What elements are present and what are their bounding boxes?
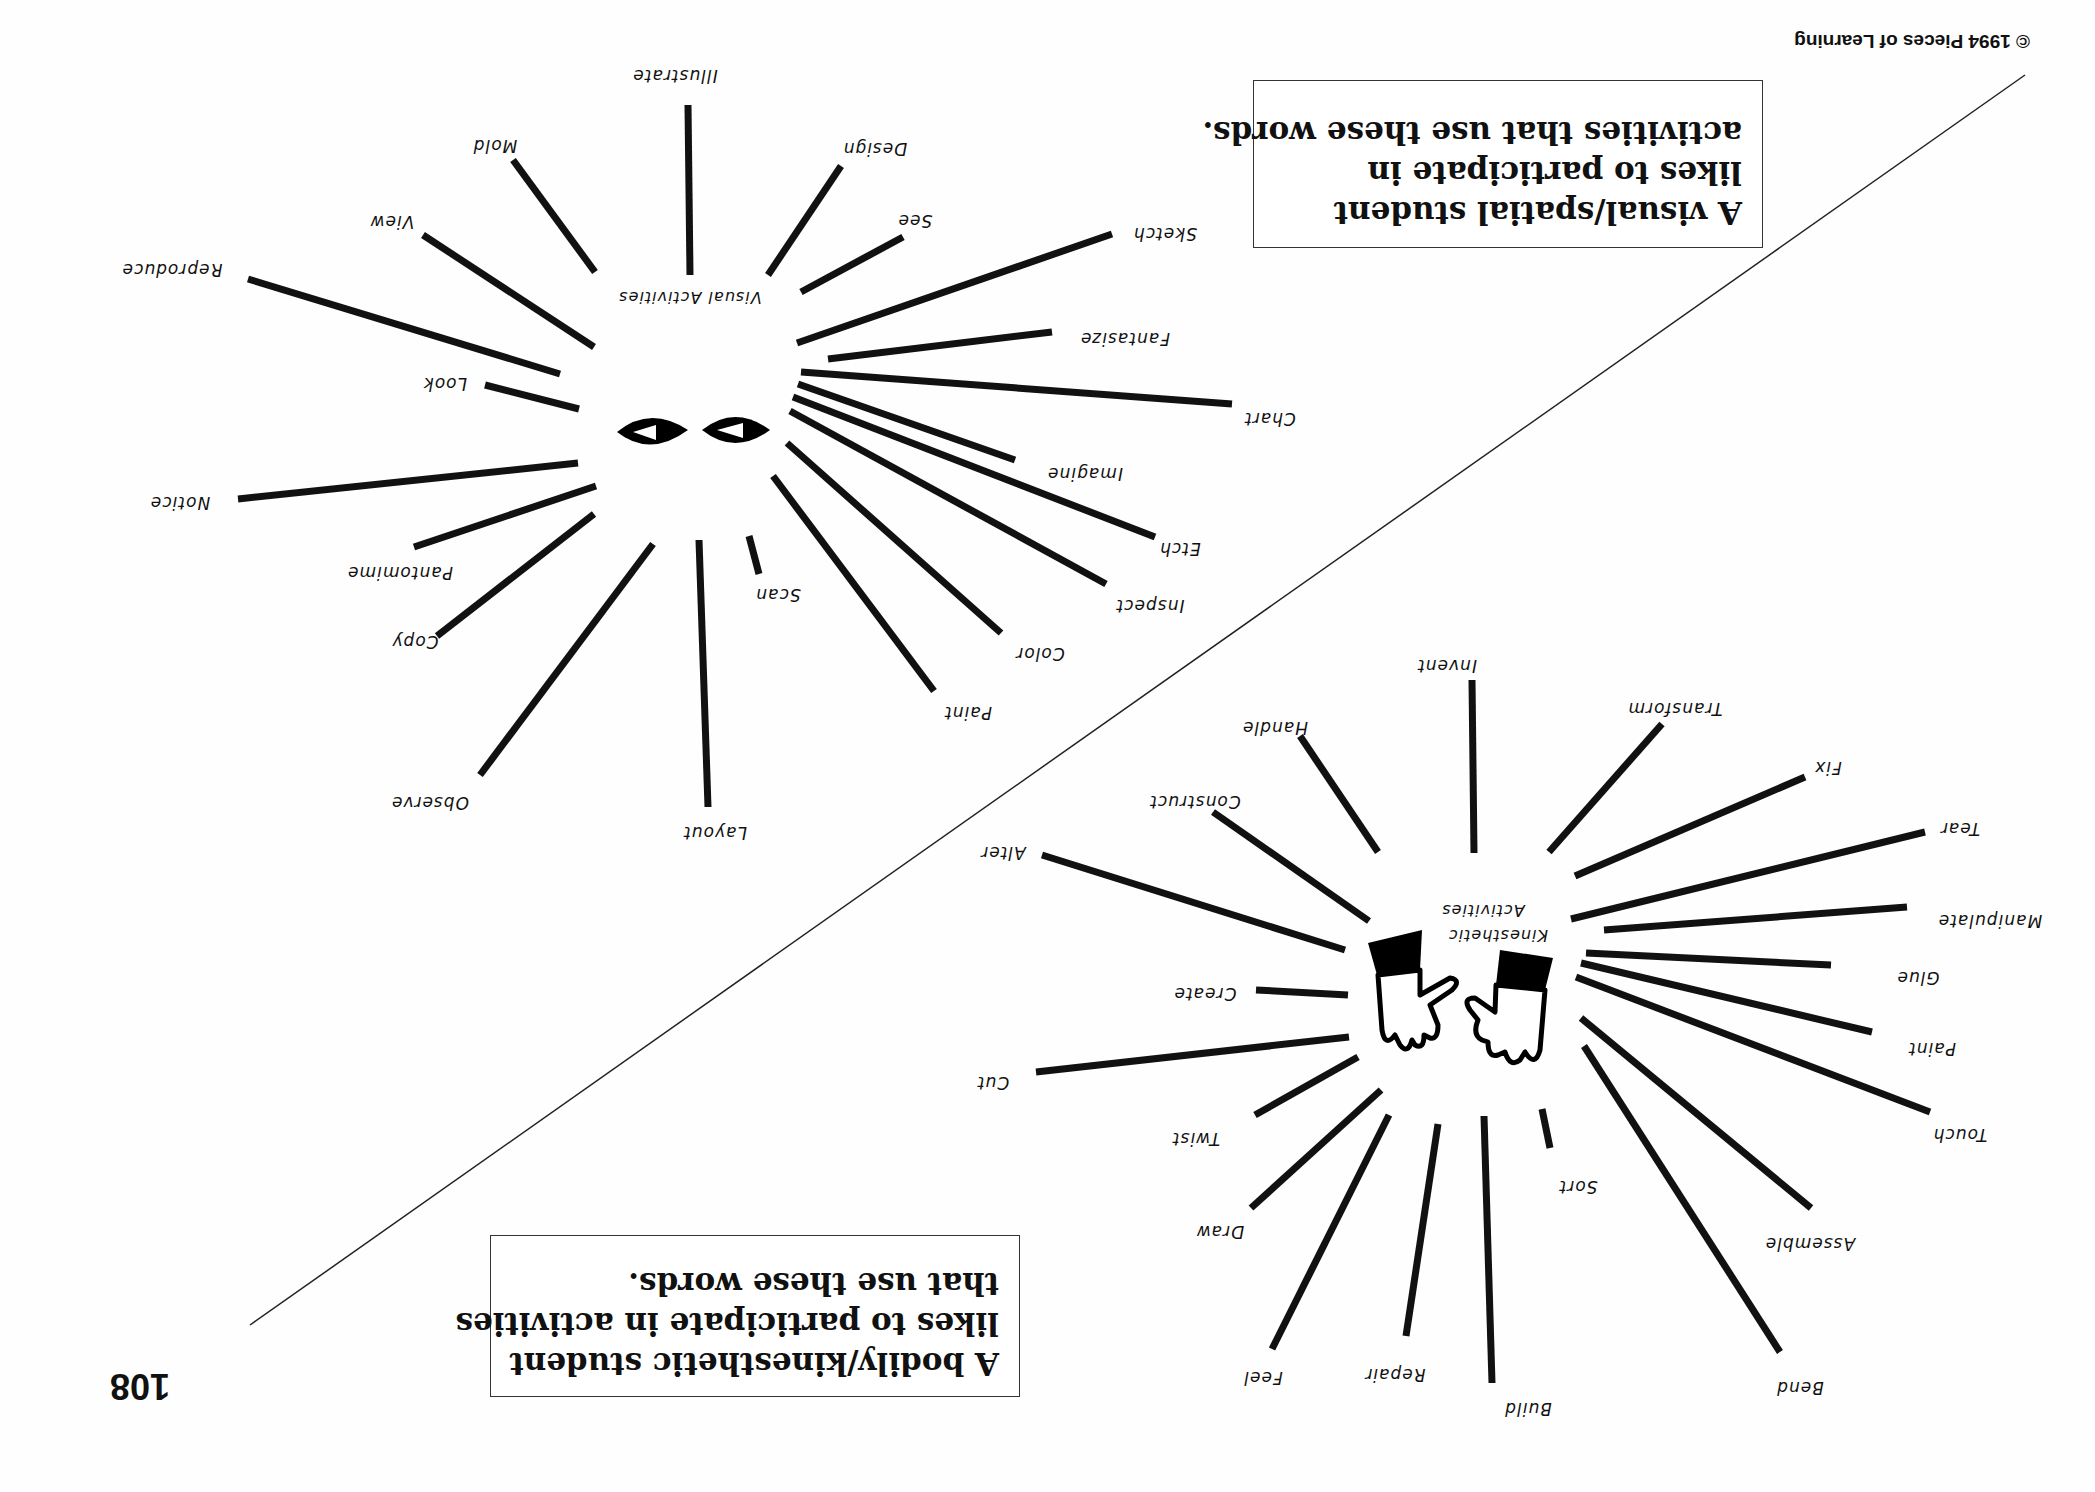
kinesthetic-caption-box: A bodily/kinesthetic student likes to pa… [490,1235,1020,1397]
visual-word: Reproduce [122,260,223,280]
kinesthetic-ray [1036,1037,1349,1072]
visual-word: Fantasize [1080,329,1170,349]
visual-ray [797,234,1112,343]
visual-word: Etch [1159,539,1201,559]
kinesthetic-ray [1272,1115,1389,1349]
kinesthetic-ray [1472,680,1474,853]
visual-ray [828,332,1052,359]
diagonal-divider [250,75,2025,1325]
visual-ray [513,160,595,272]
kinesthetic-word: Manipulate [1938,911,2042,931]
visual-word: Chart [1244,409,1296,429]
visual-word: See [898,211,933,231]
kinesthetic-ray [1542,1109,1550,1148]
visual-ray [801,372,1232,404]
kinesthetic-ray [1584,1046,1780,1352]
kinesthetic-ray [1586,953,1831,965]
kinesthetic-caption-line-2: likes to participate in activities [491,1304,999,1344]
kinesthetic-word: Transform [1627,699,1722,719]
visual-ray [699,540,708,807]
kinesthetic-word: Fix [1814,758,1842,778]
visual-word: Copy [391,632,438,652]
kinesthetic-ray [1255,1057,1358,1115]
visual-caption-line-2: likes to participate in [1254,153,1742,193]
visual-word: Design [843,139,908,159]
kinesthetic-word: Tear [1940,819,1980,839]
visual-word: Color [1015,644,1064,664]
kinesthetic-caption-line-3: that use these words. [491,1264,999,1304]
kinesthetic-ray [1484,1116,1492,1383]
kinesthetic-ray [1406,1124,1438,1336]
visual-caption-box: A visual/spatial student likes to partic… [1253,80,1763,248]
visual-hub-label: Visual Activities [618,288,761,307]
visual-ray [801,237,903,292]
visual-word: Pantomime [347,563,453,583]
kinesthetic-word: Paint [1908,1039,1956,1059]
visual-word: Look [423,374,467,394]
kinesthetic-word: Build [1504,1399,1552,1419]
page-number: 108 [110,1365,170,1407]
visual-ray [798,384,1015,460]
kinesthetic-ray [1581,1018,1811,1208]
kinesthetic-word: Alter [980,843,1026,863]
kinesthetic-ray [1575,777,1805,876]
visual-ray [688,105,690,275]
kinesthetic-caption-line-1: A bodily/kinesthetic student [491,1344,999,1384]
kinesthetic-word: Invent [1417,656,1477,676]
visual-word: View [370,212,415,232]
kinesthetic-word: Handle [1242,718,1308,738]
kinesthetic-word: Twist [1172,1129,1220,1149]
kinesthetic-word: Touch [1933,1125,1988,1145]
visual-caption-line-3: activities that use these words. [1254,113,1742,153]
kinesthetic-word: Repair [1364,1365,1425,1385]
visual-word: Imagine [1047,464,1123,484]
visual-ray [749,536,759,574]
visual-word: Inspect [1115,596,1184,616]
kinesthetic-word: Feel [1243,1368,1282,1388]
kinesthetic-ray [1213,812,1369,921]
kinesthetic-word: Create [1174,984,1237,1004]
kinesthetic-hub-label-1: Kinesthetic [1448,926,1548,945]
kinesthetic-ray [1256,990,1348,995]
visual-word: Illustrate [632,66,717,86]
kinesthetic-hub-label-2: Activities [1441,901,1525,920]
kinesthetic-word: Cut [977,1073,1010,1093]
kinesthetic-word: Draw [1196,1222,1244,1242]
visual-word: Scan [755,585,800,605]
visual-word: Layout [683,823,747,843]
visual-ray [773,476,934,691]
kinesthetic-ray [1576,977,1930,1112]
visual-word: Sketch [1133,224,1197,244]
visual-ray [768,166,841,275]
visual-ray [423,235,594,347]
worksheet-page: IllustrateMoldDesignSeeViewSketchReprodu… [0,0,2095,1492]
eyes-icon [617,417,770,445]
kinesthetic-ray [1549,724,1662,852]
visual-word: Observe [391,793,469,813]
activity-diagram: IllustrateMoldDesignSeeViewSketchReprodu… [0,0,2095,1492]
kinesthetic-word: Sort [1558,1177,1597,1197]
visual-caption-line-1: A visual/spatial student [1254,193,1742,233]
kinesthetic-word: Assemble [1765,1234,1856,1254]
visual-word: Mold [473,136,518,156]
visual-word: Paint [944,703,992,723]
kinesthetic-word: Bend [1776,1378,1824,1398]
kinesthetic-word: Glue [1896,968,1939,988]
kinesthetic-ray [1300,736,1378,852]
visual-word-web: IllustrateMoldDesignSeeViewSketchReprodu… [122,66,1296,843]
kinesthetic-ray [1571,832,1925,919]
kinesthetic-ray [1604,907,1907,930]
copyright-notice: © 1994 Pieces of Learning [1720,30,2030,52]
kinesthetic-word: Construct [1149,792,1241,812]
visual-ray [238,463,578,499]
visual-word: Notice [150,493,210,513]
hands-icon [1368,930,1553,1063]
visual-ray [485,385,579,409]
